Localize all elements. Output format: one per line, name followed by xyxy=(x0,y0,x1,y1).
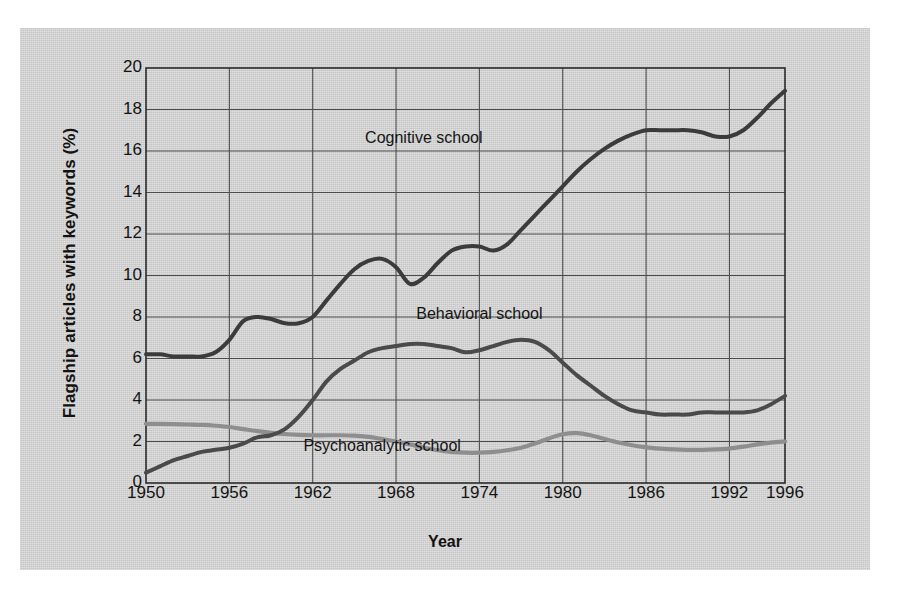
chart-plot-area: Flagship articles with keywords (%) Year… xyxy=(20,28,870,570)
figure-panel: Flagship articles with keywords (%) Year… xyxy=(20,28,870,570)
chart-svg xyxy=(20,28,870,570)
series-line xyxy=(146,424,785,453)
series-label: Cognitive school xyxy=(365,129,482,147)
series-label: Behavioral school xyxy=(416,305,542,323)
series-label: Psychoanalytic school xyxy=(303,437,460,455)
